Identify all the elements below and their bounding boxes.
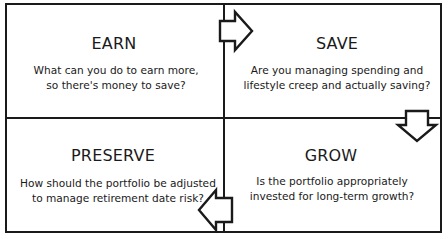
quadrant-description: How should the portfolio be adjusted to … [9,176,227,206]
description-line: invested for long-term growth? [222,189,442,204]
description-line: How should the portfolio be adjusted [9,176,227,191]
description-line: Is the portfolio appropriately [222,174,442,189]
arrow-left-icon [196,186,242,234]
description-line: What can you do to earn more, [9,63,223,78]
quadrant-description: Is the portfolio appropriately invested … [222,174,442,204]
quadrant-earn: EARN What can you do to earn more, so th… [5,3,223,117]
quadrant-title: GROW [220,146,442,165]
description-line: so there's money to save? [9,78,223,93]
description-line: Are you managing spending and [232,63,442,78]
quadrant-preserve: PRESERVE How should the portfolio be adj… [5,118,223,232]
description-line: to manage retirement date risk? [9,191,227,206]
description-line: lifestyle creep and actually saving? [232,78,442,93]
quadrant-title: EARN [5,34,223,53]
arrow-down-icon [396,104,440,146]
quadrant-title: PRESERVE [3,146,223,165]
quadrant-description: Are you managing spending and lifestyle … [232,63,442,93]
quadrant-description: What can you do to earn more, so there's… [9,63,223,93]
arrow-right-icon [210,8,260,56]
quadrant-title: SAVE [232,34,442,53]
